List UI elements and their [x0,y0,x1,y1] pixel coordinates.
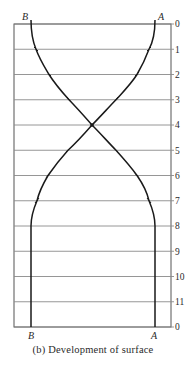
svg-text:2: 2 [175,70,180,80]
svg-text:10: 10 [175,272,185,282]
bottom-label-b: B [28,330,34,341]
development-diagram: B A B A 0 1 2 3 4 5 6 7 8 9 10 11 0 [0,0,193,365]
svg-text:0: 0 [175,19,180,29]
svg-text:5: 5 [175,146,180,156]
top-label-a: A [157,11,165,22]
top-label-b: B [22,11,28,22]
svg-text:7: 7 [175,196,180,206]
bottom-label-a: A [150,330,158,341]
crossing-point [90,123,94,127]
figure-caption: (b) Development of surface [0,344,186,355]
svg-text:1: 1 [175,45,180,55]
svg-text:0: 0 [175,322,180,332]
svg-text:8: 8 [175,221,180,231]
svg-text:9: 9 [175,247,180,257]
station-lines [14,24,174,327]
svg-text:4: 4 [175,120,180,130]
station-labels: 0 1 2 3 4 5 6 7 8 9 10 11 0 [175,19,185,332]
svg-text:6: 6 [175,171,180,181]
svg-text:11: 11 [175,297,184,307]
svg-text:3: 3 [175,95,180,105]
